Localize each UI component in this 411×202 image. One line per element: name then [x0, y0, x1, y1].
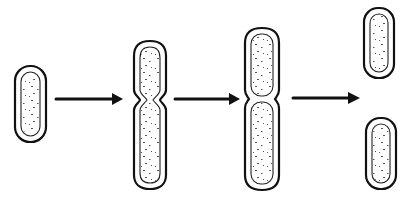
stage-septum-formed	[245, 28, 279, 190]
arrow-2-icon	[175, 93, 240, 105]
daughter-cell-bottom	[366, 118, 396, 189]
arrow-3-icon	[293, 92, 360, 104]
stage-constricting-cell	[134, 41, 166, 189]
arrow-1-icon	[56, 93, 123, 105]
cytoplasm-speckles	[141, 48, 159, 182]
diagram-canvas	[0, 0, 411, 202]
stage-daughter-cells	[364, 8, 396, 189]
upper-cytoplasm-speckles	[252, 35, 272, 95]
cytoplasm-speckles	[373, 125, 389, 182]
daughter-cell-top	[364, 8, 394, 78]
binary-fission-diagram	[0, 0, 411, 202]
lower-cytoplasm-speckles	[252, 103, 272, 183]
cytoplasm-speckles	[371, 15, 387, 71]
stage-single-cell	[15, 66, 46, 142]
cytoplasm-speckles	[22, 73, 39, 135]
